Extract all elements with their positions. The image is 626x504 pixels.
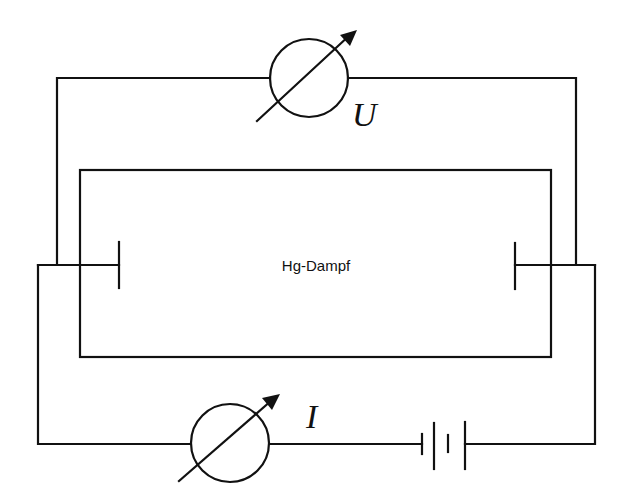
tube-label: Hg-Dampf	[282, 257, 351, 274]
battery-icon	[422, 422, 465, 469]
voltmeter-label: U	[352, 96, 379, 133]
ammeter-label: I	[305, 398, 319, 435]
circuit-diagram: U Hg-Dampf I	[0, 0, 626, 504]
left-electrode	[38, 242, 119, 288]
voltmeter-icon	[257, 30, 357, 121]
right-electrode	[515, 243, 595, 289]
ammeter-icon	[179, 394, 280, 482]
voltmeter-circuit-wire	[57, 78, 576, 265]
